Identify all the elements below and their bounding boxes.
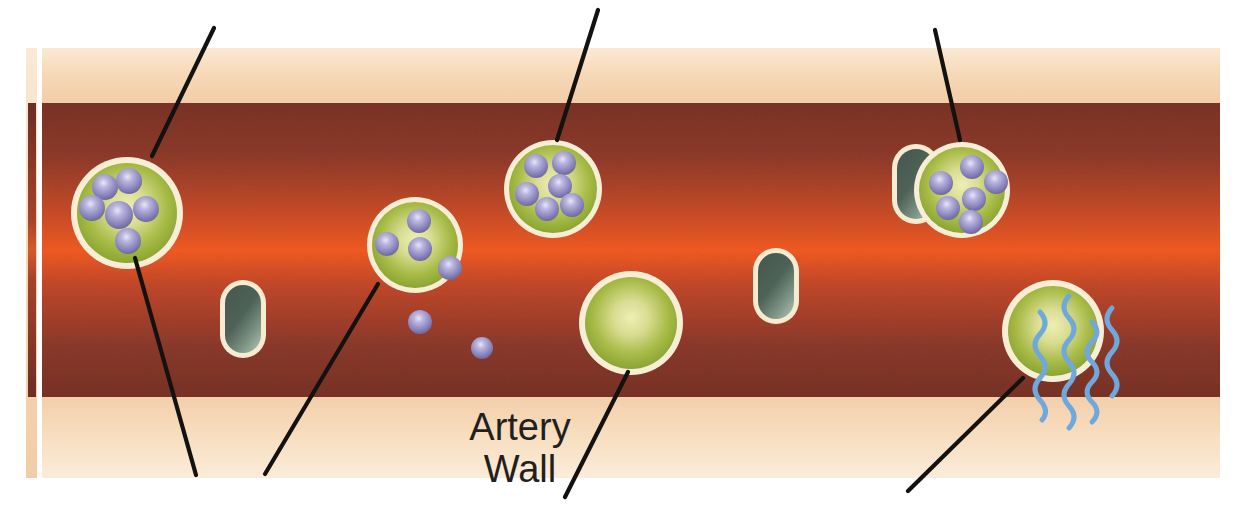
granule [116, 168, 142, 194]
artery-wall-label-line1: Artery [469, 406, 570, 448]
free-granule-2 [408, 310, 432, 334]
bacterium-body [225, 285, 261, 353]
macrophage-signaling-bottom-right [1002, 280, 1104, 382]
cell-body [585, 277, 677, 369]
granule [133, 196, 159, 222]
macrophage-with-granules-top-center [504, 140, 602, 238]
macrophage-with-granules-left [71, 157, 183, 269]
illustration-root: Artery Wall [0, 0, 1242, 524]
bacterium-center-right [753, 248, 799, 324]
artery-wall-upper-band [42, 48, 1220, 104]
artery-cross-section-strip [26, 48, 37, 478]
granule [115, 228, 141, 254]
bacterium-left [220, 280, 266, 358]
free-granule-1 [438, 256, 462, 280]
granule [984, 170, 1008, 194]
granule [560, 193, 584, 217]
artery-wall-label: Artery Wall [469, 406, 570, 490]
bacterium-body [758, 253, 794, 319]
granule [515, 182, 539, 206]
granule [105, 201, 133, 229]
artery-wall-label-line2: Wall [484, 448, 556, 490]
granule [524, 154, 548, 178]
granule [959, 210, 983, 234]
granule [79, 195, 105, 221]
macrophage-empty-center [579, 271, 683, 375]
granule [407, 209, 431, 233]
artery-illustration-canvas: Artery Wall [0, 0, 1242, 524]
strip-lumen [28, 103, 36, 397]
granule [962, 187, 986, 211]
free-granule-3 [471, 337, 493, 359]
granule [408, 237, 432, 261]
granule [936, 196, 960, 220]
granule [375, 232, 399, 256]
macrophage-with-granules-right [914, 142, 1010, 238]
cell-body [1008, 286, 1098, 376]
granule [960, 155, 984, 179]
granule [929, 171, 953, 195]
granule [552, 151, 576, 175]
granule [535, 197, 559, 221]
